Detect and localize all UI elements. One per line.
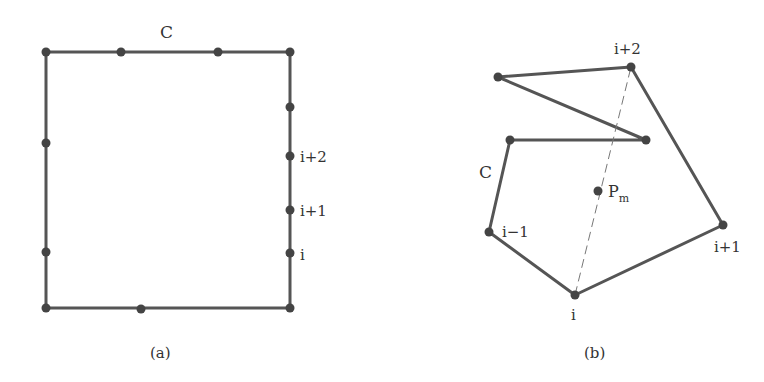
figure-canvas: C i+2i+1i (a) Pm C i+2i+1ii−1 (b) bbox=[0, 0, 764, 382]
contour-point bbox=[42, 248, 51, 257]
contour-point bbox=[137, 305, 146, 314]
contour-point bbox=[42, 48, 51, 57]
contour-point bbox=[286, 48, 295, 57]
polygon-vertex bbox=[571, 291, 580, 300]
vertex-labels: i+2i+1ii−1 bbox=[502, 40, 741, 324]
midpoint-label: Pm bbox=[608, 182, 630, 205]
contour-point bbox=[214, 48, 223, 57]
polygon-vertices bbox=[485, 63, 728, 300]
polygon-contour bbox=[489, 67, 723, 295]
vertex-label: i+2 bbox=[300, 148, 327, 166]
polygon-vertex bbox=[719, 221, 728, 230]
vertex-label: i+1 bbox=[300, 202, 327, 220]
vertex-label: i bbox=[571, 306, 576, 324]
figure-b: Pm C i+2i+1ii−1 (b) bbox=[479, 40, 741, 362]
dashed-chord bbox=[575, 67, 631, 295]
contour-point bbox=[286, 152, 295, 161]
polygon-vertex bbox=[627, 63, 636, 72]
contour-point bbox=[286, 206, 295, 215]
caption-a: (a) bbox=[150, 344, 171, 362]
contour-point bbox=[42, 139, 51, 148]
polygon-vertex bbox=[494, 73, 503, 82]
rectangular-contour bbox=[46, 52, 290, 308]
vertex-label: i+2 bbox=[614, 40, 641, 58]
figure-a: C i+2i+1i (a) bbox=[42, 22, 327, 362]
curve-label-c: C bbox=[479, 162, 492, 182]
polygon-vertex bbox=[506, 136, 515, 145]
vertex-label: i bbox=[300, 246, 305, 264]
polygon-vertex bbox=[485, 228, 494, 237]
vertex-labels: i+2i+1i bbox=[300, 148, 327, 264]
midpoint-dot bbox=[594, 187, 603, 196]
polygon-vertex bbox=[642, 136, 651, 145]
curve-label-c: C bbox=[160, 22, 173, 42]
vertex-label: i−1 bbox=[502, 223, 529, 241]
contour-point bbox=[42, 304, 51, 313]
vertex-label: i+1 bbox=[714, 238, 741, 256]
contour-points bbox=[42, 48, 295, 314]
contour-point bbox=[286, 249, 295, 258]
contour-point bbox=[117, 48, 126, 57]
caption-b: (b) bbox=[584, 344, 605, 362]
contour-point bbox=[286, 304, 295, 313]
contour-point bbox=[286, 103, 295, 112]
